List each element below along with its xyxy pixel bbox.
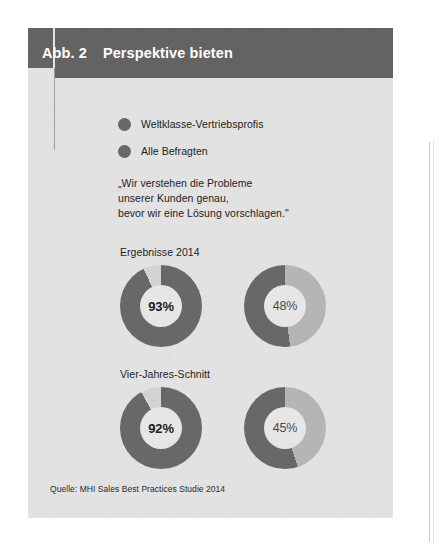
donut-value-label: 93% — [148, 299, 174, 314]
donut-chart-48: 48% — [244, 265, 326, 347]
donut-hole: 93% — [140, 285, 182, 327]
donut-hole: 48% — [264, 285, 306, 327]
legend-item-weltklasse: Weltklasse-Vertriebsprofis — [118, 113, 263, 135]
header-side-rule — [54, 68, 55, 150]
legend-label: Alle Befragten — [141, 145, 208, 157]
survey-question-quote: „Wir verstehen die Probleme unserer Kund… — [118, 176, 289, 221]
group-label: Ergebnisse 2014 — [120, 246, 200, 258]
source-note: Quelle: MHI Sales Best Practices Studie … — [50, 484, 225, 494]
figure-header: Abb. 2 Perspektive bieten — [28, 28, 233, 78]
figure-page: Abb. 2 Perspektive bieten Weltklasse-Ver… — [0, 0, 444, 551]
legend-dot-icon — [118, 118, 131, 131]
donut-hole: 45% — [264, 407, 306, 449]
page-edge-rule-outer — [433, 140, 434, 544]
donut-value-label: 45% — [273, 421, 298, 435]
page-edge-rule — [429, 142, 430, 542]
donut-value-label: 48% — [273, 299, 298, 313]
figure-panel: Abb. 2 Perspektive bieten Weltklasse-Ver… — [28, 28, 393, 518]
figure-number: Abb. 2 — [42, 45, 87, 61]
donut-hole: 92% — [140, 407, 182, 449]
donut-chart-45: 45% — [244, 387, 326, 469]
figure-title: Perspektive bieten — [103, 45, 233, 61]
quote-line-2: unserer Kunden genau, — [118, 191, 289, 206]
donut-chart-92: 92% — [120, 387, 202, 469]
legend-label: Weltklasse-Vertriebsprofis — [141, 118, 263, 130]
legend-dot-icon — [118, 145, 131, 158]
donut-value-label: 92% — [148, 421, 174, 436]
chart-legend: Weltklasse-Vertriebsprofis Alle Befragte… — [118, 113, 263, 167]
quote-line-3: bevor wir eine Lösung vorschlagen." — [118, 206, 289, 221]
group-label: Vier-Jahres-Schnitt — [120, 368, 210, 380]
legend-item-alle-befragten: Alle Befragten — [118, 140, 263, 162]
quote-line-1: „Wir verstehen die Probleme — [118, 176, 289, 191]
donut-chart-93: 93% — [120, 265, 202, 347]
